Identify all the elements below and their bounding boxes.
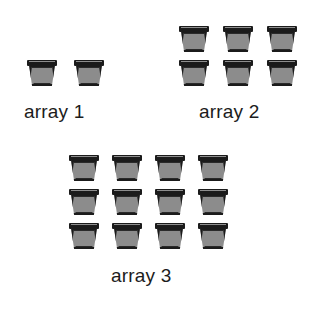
array-unit [155,223,185,249]
array-unit [267,26,297,52]
array-unit [267,60,297,86]
array-unit [198,223,228,249]
unit-body-icon [114,194,140,215]
array-group-2 [179,26,297,86]
array-3-unit-grid [69,155,228,249]
array-unit [179,60,209,86]
unit-body-icon [200,194,226,215]
array-group-1 [27,60,104,86]
array-unit [112,189,142,215]
unit-body-icon [29,65,55,86]
array-unit [223,60,253,86]
array-unit [223,26,253,52]
unit-body-icon [114,160,140,181]
array-unit [179,26,209,52]
array-2-label: array 2 [199,101,260,123]
array-unit [112,223,142,249]
diagram-canvas: array 1 [0,0,315,312]
array-unit [27,60,57,86]
unit-body-icon [157,228,183,249]
unit-body-icon [114,228,140,249]
array-unit [198,155,228,181]
array-unit [155,189,185,215]
unit-body-icon [157,194,183,215]
unit-body-icon [157,160,183,181]
array-unit [198,189,228,215]
array-3-label: array 3 [111,265,172,287]
unit-body-icon [269,31,295,52]
array-unit [69,155,99,181]
array-unit [69,189,99,215]
unit-body-icon [76,65,102,86]
array-unit [69,223,99,249]
array-2-unit-grid [179,26,297,86]
unit-body-icon [269,65,295,86]
unit-body-icon [71,228,97,249]
unit-body-icon [181,31,207,52]
array-unit [112,155,142,181]
array-unit [155,155,185,181]
array-group-3 [69,155,228,249]
unit-body-icon [200,228,226,249]
array-1-label: array 1 [24,101,85,123]
unit-body-icon [225,65,251,86]
array-1-unit-grid [27,60,104,86]
unit-body-icon [71,194,97,215]
unit-body-icon [71,160,97,181]
unit-body-icon [200,160,226,181]
array-unit [74,60,104,86]
unit-body-icon [225,31,251,52]
unit-body-icon [181,65,207,86]
